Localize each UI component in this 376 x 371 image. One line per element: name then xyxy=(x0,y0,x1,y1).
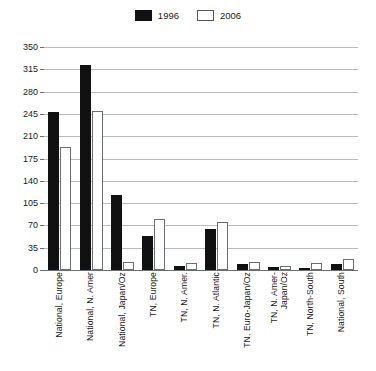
bar-1996 xyxy=(331,264,342,270)
x-axis-category: TN, N. Atlantic xyxy=(201,272,232,371)
bar-1996 xyxy=(299,268,310,270)
y-axis-tick-label: 350 xyxy=(0,42,38,52)
legend-swatch-1996 xyxy=(135,10,152,21)
y-axis-tick-label: 315 xyxy=(0,64,38,74)
legend-swatch-2006 xyxy=(197,10,214,21)
legend-label-1996: 1996 xyxy=(158,11,179,21)
y-axis-tick-label: 175 xyxy=(0,154,38,164)
y-axis-tick-label: 245 xyxy=(0,109,38,119)
bar-group xyxy=(201,47,232,270)
bar-1996 xyxy=(111,195,122,270)
y-axis-tick-label: 0 xyxy=(0,265,38,275)
x-axis-category: National, South xyxy=(327,272,358,371)
x-axis-category-label: TN, North-South xyxy=(306,272,316,336)
x-axis-category: TN, N. Amer- Japan/Oz xyxy=(264,272,295,371)
x-axis-category-label: TN, N. Amer- Japan/Oz xyxy=(270,272,290,323)
x-axis-category-labels: National, EuropeNational, N. AmerNationa… xyxy=(44,272,358,371)
x-axis-category-label: TN, Europe xyxy=(149,272,159,317)
bar-group xyxy=(107,47,138,270)
y-axis-tick-label: 70 xyxy=(0,220,38,230)
x-axis-category: National, N. Amer xyxy=(75,272,106,371)
bar-group xyxy=(264,47,295,270)
x-axis-category: TN, Europe xyxy=(138,272,169,371)
x-axis-category: TN, N. Amer. xyxy=(170,272,201,371)
bar-group xyxy=(327,47,358,270)
bar-2006 xyxy=(186,263,197,270)
bar-2006 xyxy=(154,219,165,270)
bar-2006 xyxy=(217,222,228,270)
bar-1996 xyxy=(80,65,91,270)
y-axis-tick-label: 140 xyxy=(0,176,38,186)
bar-2006 xyxy=(92,111,103,270)
bar-1996 xyxy=(48,112,59,270)
bar-chart: 1996 2006 03570105140175210245280315350 … xyxy=(0,0,376,371)
plot-area xyxy=(44,47,358,270)
y-axis-tick-label: 280 xyxy=(0,87,38,97)
bar-1996 xyxy=(205,229,216,270)
x-axis-category-label: National, South xyxy=(337,272,347,332)
bar-1996 xyxy=(268,267,279,270)
bar-group xyxy=(232,47,263,270)
x-axis-category-label: TN, N. Atlantic xyxy=(212,272,222,328)
bar-2006 xyxy=(280,266,291,270)
legend-item-1996: 1996 xyxy=(135,10,179,21)
bar-groups xyxy=(44,47,358,270)
y-axis-tick-label: 105 xyxy=(0,198,38,208)
bar-group xyxy=(295,47,326,270)
bar-2006 xyxy=(249,262,260,270)
bar-group xyxy=(75,47,106,270)
x-axis-category: National, Europe xyxy=(44,272,75,371)
bar-2006 xyxy=(311,263,322,270)
x-axis-category-label: TN, Euro-Japan/Oz xyxy=(243,272,253,348)
bar-2006 xyxy=(343,259,354,270)
x-axis-category: National, Japan/Oz xyxy=(107,272,138,371)
bar-group xyxy=(138,47,169,270)
x-axis-category-label: National, N. Amer xyxy=(86,272,96,341)
bar-2006 xyxy=(60,147,71,270)
bar-1996 xyxy=(237,264,248,270)
bar-1996 xyxy=(174,266,185,270)
x-axis-category: TN, Euro-Japan/Oz xyxy=(232,272,263,371)
bar-2006 xyxy=(123,262,134,270)
x-axis-category-label: National, Japan/Oz xyxy=(118,272,128,347)
chart-legend: 1996 2006 xyxy=(0,10,376,21)
y-axis-tick-label: 210 xyxy=(0,131,38,141)
y-axis-tick-label: 35 xyxy=(0,243,38,253)
legend-item-2006: 2006 xyxy=(197,10,241,21)
bar-group xyxy=(170,47,201,270)
x-axis-category-label: TN, N. Amer. xyxy=(180,272,190,322)
bar-group xyxy=(44,47,75,270)
bar-1996 xyxy=(142,236,153,270)
x-axis-category: TN, North-South xyxy=(295,272,326,371)
gridline-0 xyxy=(44,270,358,271)
legend-label-2006: 2006 xyxy=(220,11,241,21)
x-axis-category-label: National, Europe xyxy=(55,272,65,338)
